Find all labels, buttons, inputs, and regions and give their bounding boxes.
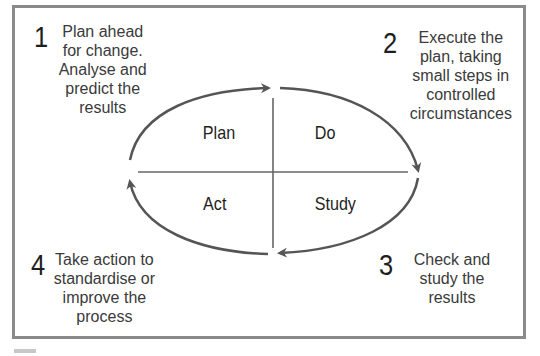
step-1: 1 Plan ahead for change. Analyse and pre… (34, 22, 147, 117)
quadrant-act: Act (203, 193, 226, 215)
step-1-number: 1 (34, 22, 48, 52)
step-4-number: 4 (31, 250, 45, 280)
step-2-number: 2 (383, 28, 397, 58)
step-2-text: Execute the plan, taking small steps in … (410, 28, 512, 123)
step-3-number: 3 (379, 250, 393, 280)
step-3: 3 Check and study the results (379, 250, 490, 307)
step-2: 2 Execute the plan, taking small steps i… (383, 28, 512, 123)
step-4-text: Take action to standardise or improve th… (54, 250, 155, 326)
step-4: 4 Take action to standardise or improve … (31, 250, 155, 326)
quadrant-do: Do (315, 122, 336, 144)
caption-fragment (14, 349, 36, 353)
arrow-act-to-plan (130, 182, 268, 254)
quadrant-plan: Plan (203, 122, 235, 144)
step-1-text: Plan ahead for change. Analyse and predi… (59, 22, 147, 117)
step-3-text: Check and study the results (414, 250, 491, 307)
arrow-plan-to-do (130, 88, 268, 160)
quadrant-study: Study (315, 193, 356, 215)
arrow-study-to-act (280, 178, 418, 253)
